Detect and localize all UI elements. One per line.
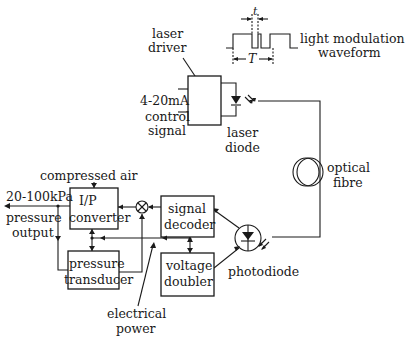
signal-decoder-block: signal decoder (161, 196, 215, 237)
optical-fibre-label-1: optical (327, 160, 370, 175)
compressed-air-label: compressed air (40, 168, 137, 183)
pressure-transducer-label-2: transducer (64, 272, 133, 287)
ip-converter-label-1: I/P (79, 193, 97, 208)
electrical-power-label-1: electrical (107, 306, 166, 321)
optical-fibre-label-2: fibre (333, 175, 363, 190)
laser-diode-label-2: diode (225, 140, 260, 155)
light-modulation-label-2: waveform (318, 45, 381, 60)
fibre-optic-system-diagram: t T light modulation waveform laser driv… (0, 0, 405, 344)
voltage-doubler-block: voltage doubler (161, 253, 214, 296)
laser-driver-label-2: driver (148, 40, 186, 55)
laser-driver-label-1: laser (152, 26, 183, 41)
control-signal-label-2: control (145, 109, 190, 124)
laser-diode-label-1: laser (227, 125, 258, 140)
voltage-doubler-label-2: doubler (164, 274, 213, 289)
pressure-output-label-1: pressure (6, 210, 62, 225)
voltage-doubler-label-1: voltage (165, 258, 212, 273)
pressure-transducer-label-1: pressure (69, 256, 125, 271)
ip-converter-label-2: converter (69, 210, 130, 225)
optical-fibre: optical fibre (258, 101, 370, 237)
tau-label: t (253, 5, 258, 18)
laser-driver-box (188, 76, 221, 125)
signal-decoder-label-2: decoder (164, 217, 215, 232)
control-signal-label-3: signal (148, 123, 186, 138)
electrical-power-label-2: power (116, 321, 156, 336)
control-signal-label-1: 4-20mA (140, 93, 190, 108)
pressure-range-label: 20-100kPa (6, 189, 73, 204)
laser-diode: laser diode (221, 83, 260, 155)
light-modulation-label-1: light modulation (300, 31, 405, 46)
pressure-output-label-2: output (12, 225, 54, 240)
photodiode-label: photodiode (228, 264, 299, 279)
laser-driver-block: laser driver 4-20mA control signal (140, 26, 221, 138)
pressure-output: 20-100kPa pressure output (4, 189, 73, 270)
laser-diode-icon (231, 96, 241, 104)
period-label: T (248, 51, 258, 66)
light-modulation-waveform: t T light modulation waveform (226, 5, 405, 66)
signal-decoder-label-1: signal (168, 201, 206, 216)
photodiode: photodiode (212, 208, 299, 279)
